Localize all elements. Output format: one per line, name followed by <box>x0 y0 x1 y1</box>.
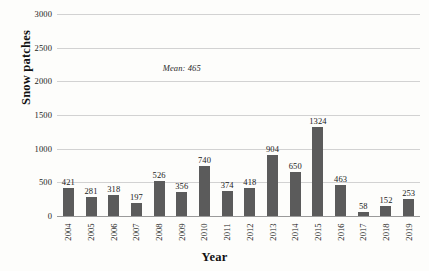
x-axis-tick-label: 2013 <box>268 223 278 240</box>
bar-value-label: 318 <box>107 184 120 194</box>
axis-baseline: 0 <box>57 216 420 217</box>
bar-slot: 2532019 <box>397 14 420 216</box>
bar-value-label: 374 <box>221 180 234 190</box>
bar-chart: Snow patches 050010001500200025003000 42… <box>0 0 429 271</box>
bar-slot: 1972007 <box>125 14 148 216</box>
bar[interactable]: 253 <box>403 199 414 216</box>
bar-value-label: 58 <box>359 201 368 211</box>
bar[interactable]: 740 <box>199 166 210 216</box>
plot-area: 050010001500200025003000 421200428120053… <box>57 14 420 216</box>
y-axis-tick-label: 0 <box>48 211 52 221</box>
bar-slot: 3562009 <box>170 14 193 216</box>
bar[interactable]: 904 <box>267 155 278 216</box>
bar[interactable]: 650 <box>290 172 301 216</box>
mean-annotation: Mean: 465 <box>163 63 201 73</box>
y-axis-tick-label: 1000 <box>35 144 52 154</box>
bar-value-label: 197 <box>130 192 143 202</box>
x-axis-tick-label: 2017 <box>358 223 368 240</box>
bar-slot: 2812005 <box>80 14 103 216</box>
bar-slot: 3182006 <box>102 14 125 216</box>
x-axis-tick-label: 2005 <box>86 223 96 240</box>
bar[interactable]: 1324 <box>312 127 323 216</box>
bar[interactable]: 356 <box>176 192 187 216</box>
y-axis-title: Snow patches <box>19 0 34 138</box>
bar-slot: 9042013 <box>261 14 284 216</box>
x-axis-title: Year <box>0 250 429 265</box>
y-axis-tick-label: 2000 <box>35 76 52 86</box>
bar-slot: 4212004 <box>57 14 80 216</box>
bar-value-label: 253 <box>402 188 415 198</box>
bar[interactable]: 526 <box>154 181 165 216</box>
bar-value-label: 152 <box>379 195 392 205</box>
x-axis-tick-label: 2009 <box>177 223 187 240</box>
bar-slot: 4632016 <box>329 14 352 216</box>
y-axis-tick-label: 2500 <box>35 43 52 53</box>
bar-value-label: 650 <box>289 161 302 171</box>
x-axis-tick-label: 2011 <box>222 223 232 240</box>
bar-slot: 3742011 <box>216 14 239 216</box>
x-axis-tick-label: 2007 <box>131 223 141 240</box>
bar-series: 4212004281200531820061972007526200835620… <box>57 14 420 216</box>
x-axis-tick-label: 2016 <box>336 223 346 240</box>
bar-value-label: 740 <box>198 155 211 165</box>
bar-slot: 582017 <box>352 14 375 216</box>
bar[interactable]: 418 <box>244 188 255 216</box>
x-axis-tick-label: 2012 <box>245 223 255 240</box>
bar-slot: 5262008 <box>148 14 171 216</box>
x-axis-tick-label: 2015 <box>313 223 323 240</box>
bar-value-label: 421 <box>62 177 75 187</box>
bar-value-label: 418 <box>243 177 256 187</box>
y-axis-tick-label: 500 <box>39 177 52 187</box>
x-axis-tick-label: 2014 <box>290 223 300 240</box>
bar-value-label: 463 <box>334 174 347 184</box>
x-axis-tick-label: 2004 <box>63 223 73 240</box>
x-axis-tick-label: 2006 <box>109 223 119 240</box>
bar-value-label: 281 <box>85 186 98 196</box>
bar-value-label: 356 <box>175 181 188 191</box>
bar-value-label: 1324 <box>309 116 326 126</box>
bar[interactable]: 318 <box>108 195 119 216</box>
bar-slot: 4182012 <box>239 14 262 216</box>
x-axis-tick-label: 2008 <box>154 223 164 240</box>
y-axis-tick-label: 3000 <box>35 9 52 19</box>
x-axis-tick-label: 2019 <box>404 223 414 240</box>
bar[interactable]: 421 <box>63 188 74 216</box>
bar-slot: 7402010 <box>193 14 216 216</box>
bar[interactable]: 197 <box>131 203 142 216</box>
bar-value-label: 904 <box>266 144 279 154</box>
bar-slot: 13242015 <box>307 14 330 216</box>
bar[interactable]: 58 <box>358 212 369 216</box>
x-axis-tick-label: 2018 <box>381 223 391 240</box>
bar[interactable]: 374 <box>222 191 233 216</box>
bar[interactable]: 281 <box>86 197 97 216</box>
bar[interactable]: 463 <box>335 185 346 216</box>
y-axis-tick-label: 1500 <box>35 110 52 120</box>
bar-value-label: 526 <box>153 170 166 180</box>
bar[interactable]: 152 <box>380 206 391 216</box>
bar-slot: 6502014 <box>284 14 307 216</box>
bar-slot: 1522018 <box>375 14 398 216</box>
x-axis-tick-label: 2010 <box>199 223 209 240</box>
